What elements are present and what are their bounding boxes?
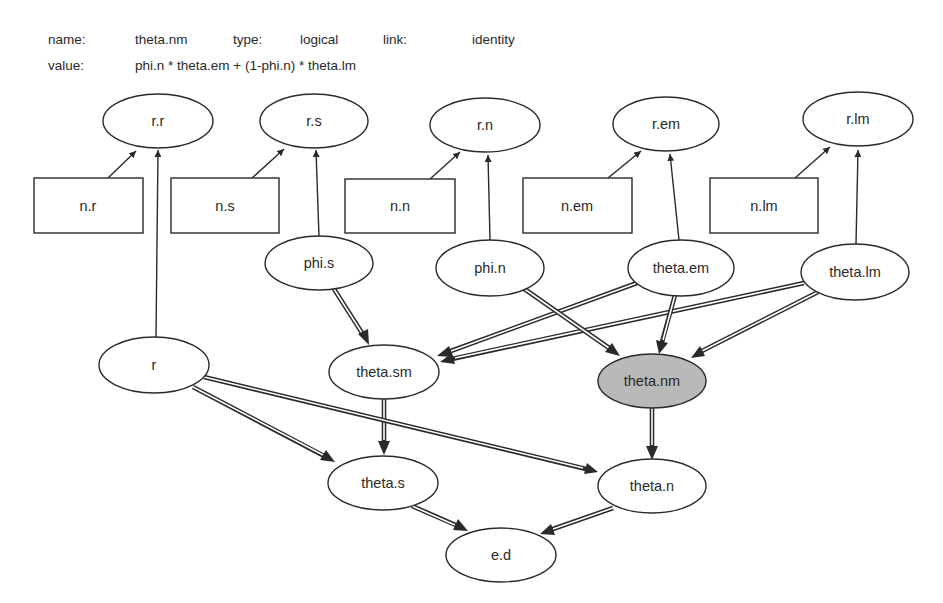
node-label: phi.n [474,260,505,276]
node-n.r[interactable]: n.r [34,178,143,233]
node-r.r[interactable]: r.r [103,94,213,148]
edge-phi.n-r.n[interactable] [488,155,490,240]
node-label: theta.n [630,478,674,494]
edge-theta.em-theta.nm[interactable] [656,295,675,354]
edge-theta.n-e.d[interactable] [540,508,613,535]
node-label: n.r [80,198,97,214]
edge-n.em-r.em[interactable] [608,151,641,178]
edge-n.s-r.s[interactable] [252,149,284,178]
edge-phi.n-theta.nm[interactable] [523,288,620,356]
edge-theta.s-e.d[interactable] [412,506,468,531]
edge-n.r-r.r[interactable] [108,151,136,178]
node-r.em[interactable]: r.em [613,97,719,151]
node-r.n[interactable]: r.n [430,98,540,152]
edge-theta.sm-theta.s[interactable] [378,399,390,455]
node-label: theta.s [361,475,405,491]
node-label: n.lm [750,198,777,214]
edge-theta.em-r.em[interactable] [670,154,679,240]
node-theta.lm[interactable]: theta.lm [801,244,909,300]
logical-edges [193,283,818,535]
edge-phi.s-r.s[interactable] [316,150,319,237]
node-label: r [152,357,157,373]
node-label: n.em [561,198,593,214]
node-label: n.s [215,198,234,214]
node-label: theta.sm [356,364,412,380]
edge-theta.lm-r.lm[interactable] [856,150,858,244]
node-label: e.d [491,547,511,563]
node-e.d[interactable]: e.d [446,528,556,582]
node-label: r.r [152,113,165,129]
node-label: theta.lm [829,264,881,280]
node-theta.nm-selected[interactable]: theta.nm [598,354,706,408]
node-theta.n[interactable]: theta.n [598,459,706,513]
node-label: n.n [390,198,410,214]
edge-r-r.r[interactable] [156,150,158,337]
edge-theta.nm-theta.n[interactable] [646,408,658,460]
node-label: r.em [652,116,680,132]
node-label: theta.nm [624,373,680,389]
edge-n.lm-r.lm[interactable] [795,147,830,178]
node-theta.em[interactable]: theta.em [628,240,734,296]
dag-canvas: r.r r.s r.n r.em r.lm n.r n.s n.n n.em n… [0,0,943,603]
node-theta.sm[interactable]: theta.sm [329,345,439,399]
node-label: phi.s [304,255,335,271]
node-n.s[interactable]: n.s [171,178,279,233]
node-n.lm[interactable]: n.lm [710,178,818,233]
node-label: theta.em [653,260,709,276]
node-phi.n[interactable]: phi.n [436,240,544,296]
node-r.lm[interactable]: r.lm [803,92,913,146]
node-label: r.n [477,117,493,133]
node-n.n[interactable]: n.n [345,179,455,233]
node-label: r.lm [846,111,869,127]
edge-phi.s-theta.sm[interactable] [334,289,369,345]
node-r[interactable]: r [99,337,209,393]
edge-r-theta.s[interactable] [193,387,335,462]
node-n.em[interactable]: n.em [523,178,632,233]
edge-n.n-r.n[interactable] [430,152,460,179]
node-theta.s[interactable]: theta.s [328,456,438,510]
node-phi.s[interactable]: phi.s [265,236,373,290]
node-r.s[interactable]: r.s [260,94,368,148]
node-label: r.s [306,113,321,129]
